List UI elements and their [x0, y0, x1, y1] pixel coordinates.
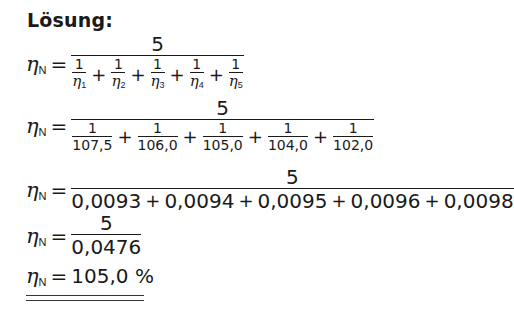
eta-n-symbol: ηN	[26, 114, 47, 138]
main-fraction: 5 1107,5 + 1106,0 + 1105,0 + 1104,0 + 11…	[71, 97, 374, 154]
main-fraction: 5 0,0093+ 0,0094+ 0,0095+ 0,0096+ 0,0098	[71, 166, 513, 213]
solution-heading: Lösung:	[27, 9, 113, 31]
equation-result: ηN = 105,0 %	[26, 264, 154, 288]
double-underline	[26, 295, 144, 301]
main-fraction: 5 1η1 + 1η2 + 1η3 + 1η4 + 1η5	[71, 33, 243, 94]
equation-line-4: ηN = 5 0,0476	[26, 212, 141, 259]
result-value: 105,0 %	[71, 264, 154, 288]
equals-sign: =	[51, 52, 68, 76]
equation-line-2: ηN = 5 1107,5 + 1106,0 + 1105,0 + 1104,0…	[26, 97, 374, 154]
equation-line-1: ηN = 5 1η1 + 1η2 + 1η3 + 1η4 + 1η5	[26, 33, 244, 94]
eta-n-symbol: ηN	[26, 52, 47, 76]
numerator: 5	[151, 33, 164, 55]
denominator: 1η1 + 1η2 + 1η3 + 1η4 + 1η5	[71, 56, 243, 94]
equation-line-3: ηN = 5 0,0093+ 0,0094+ 0,0095+ 0,0096+ 0…	[26, 166, 514, 213]
